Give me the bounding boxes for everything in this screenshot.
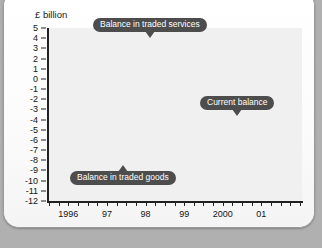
- y-axis-tick: [41, 170, 46, 171]
- y-axis-tick: [41, 119, 46, 120]
- y-axis-tick: [41, 58, 46, 59]
- y-axis-tick-label: -1: [30, 85, 38, 94]
- x-axis-tick-label: 99: [179, 209, 189, 219]
- y-axis-tick: [41, 139, 46, 140]
- annotation-balance-in-traded-services: Balance in traded services: [93, 18, 207, 32]
- x-axis-tick: [78, 202, 79, 206]
- x-axis-tick: [232, 202, 233, 206]
- x-axis-tick: [68, 202, 69, 206]
- y-axis-tick-label: -11: [26, 186, 38, 195]
- y-axis-tick: [41, 180, 46, 181]
- y-axis-tick-label: -12: [25, 197, 38, 206]
- chart-card-inner: £ billion 543210-1-2-3-4-5-6-7-8-9-10-11…: [4, 0, 314, 227]
- y-axis-tick-label: 1: [33, 64, 38, 73]
- x-axis-tick: [49, 202, 50, 206]
- x-axis-tick: [59, 202, 60, 206]
- y-axis-tick: [41, 68, 46, 69]
- annotation-label: Balance in traded goods: [77, 172, 169, 182]
- y-axis-tick: [41, 190, 46, 191]
- chart-card: £ billion 543210-1-2-3-4-5-6-7-8-9-10-11…: [3, 0, 315, 228]
- x-axis-tick: [175, 202, 176, 206]
- x-axis-tick: [261, 202, 262, 206]
- y-axis-tick-label: -4: [30, 115, 38, 124]
- x-axis-tick: [155, 202, 156, 206]
- y-axis-tick-label: -7: [30, 146, 38, 155]
- x-axis-tick-label: 01: [256, 209, 266, 219]
- annotation-label: Balance in traded services: [100, 19, 200, 29]
- chart-screenshot: £ billion 543210-1-2-3-4-5-6-7-8-9-10-11…: [0, 0, 322, 248]
- x-axis-tick-label: 1996: [58, 209, 78, 219]
- x-axis-tick: [97, 202, 98, 206]
- y-axis-tick: [41, 150, 46, 151]
- x-axis-tick: [271, 202, 272, 206]
- y-axis-tick: [41, 28, 46, 29]
- x-axis-tick-label: 2000: [213, 209, 233, 219]
- y-axis-tick-label: -5: [30, 125, 38, 134]
- pointer-down-icon: [145, 31, 155, 38]
- y-axis-tick-label: 4: [33, 34, 38, 43]
- x-axis-tick: [290, 202, 291, 206]
- y-axis-tick: [41, 78, 46, 79]
- y-axis-line: [47, 28, 49, 202]
- x-axis-tick-label: 97: [102, 209, 112, 219]
- x-axis-tick: [146, 202, 147, 206]
- x-axis-tick: [165, 202, 166, 206]
- x-axis-tick: [194, 202, 195, 206]
- y-axis-tick: [41, 201, 46, 202]
- y-axis-tick-label: -8: [30, 156, 38, 165]
- y-axis-tick-label: -2: [30, 95, 38, 104]
- y-axis-labels: 543210-1-2-3-4-5-6-7-8-9-10-11-12: [4, 28, 46, 201]
- annotation-current-balance: Current balance: [200, 96, 274, 110]
- x-axis-tick: [242, 202, 243, 206]
- x-axis-tick: [213, 202, 214, 206]
- y-axis-tick: [41, 160, 46, 161]
- x-axis-tick: [252, 202, 253, 206]
- y-axis-tick-label: -6: [30, 135, 38, 144]
- y-axis-tick-label: 5: [33, 24, 38, 33]
- y-axis-tick: [41, 48, 46, 49]
- y-axis-tick: [41, 109, 46, 110]
- y-axis-tick-label: -3: [30, 105, 38, 114]
- x-axis-tick-label: 98: [141, 209, 151, 219]
- x-axis-tick: [203, 202, 204, 206]
- y-axis-tick-label: -9: [30, 166, 38, 175]
- x-axis-tick: [281, 202, 282, 206]
- x-axis-tick: [107, 202, 108, 206]
- y-axis-tick: [41, 99, 46, 100]
- y-axis-tick: [41, 129, 46, 130]
- pointer-up-icon: [118, 165, 128, 172]
- y-axis-tick-label: 3: [33, 44, 38, 53]
- y-axis-tick-label: 0: [33, 74, 38, 83]
- y-axis-tick: [41, 38, 46, 39]
- y-axis-tick: [41, 89, 46, 90]
- annotation-balance-in-traded-goods: Balance in traded goods: [70, 171, 176, 185]
- y-axis-tick-label: 2: [33, 54, 38, 63]
- pointer-down-icon: [232, 109, 242, 116]
- annotation-label: Current balance: [207, 97, 267, 107]
- x-axis-tick: [117, 202, 118, 206]
- y-axis-title: £ billion: [35, 9, 67, 20]
- x-axis-tick: [126, 202, 127, 206]
- x-axis-tick: [136, 202, 137, 206]
- x-axis-tick: [88, 202, 89, 206]
- y-axis-tick-label: -10: [25, 176, 38, 185]
- x-axis-tick: [223, 202, 224, 206]
- x-axis-tick: [184, 202, 185, 206]
- x-axis-tick: [300, 202, 301, 206]
